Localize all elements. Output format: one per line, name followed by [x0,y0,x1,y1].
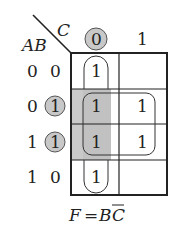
row-header-b-1: 1 [50,98,61,115]
cell-r2-c0: 1 [91,134,102,151]
row-header-b-2: 1 [50,134,61,151]
col-var-label: C [57,22,70,39]
row-header-a-0: 0 [27,63,38,80]
cell-r3-c0: 1 [91,169,102,186]
equation-equals: = [84,207,98,224]
equation-lhs: F [69,207,81,224]
col-header-1: 1 [137,31,148,48]
row-header-a-1: 0 [27,98,38,115]
col-header-0: 0 [91,31,102,48]
equation-b: B [99,207,112,224]
row-var-label: AB [22,37,47,54]
cell-r1-c1: 1 [137,98,148,115]
equation-c-bar: C [112,207,125,224]
row-header-b-0: 0 [50,63,61,80]
row-header-a-2: 1 [27,134,38,151]
row-header-b-3: 0 [50,169,61,186]
cell-r0-c0: 1 [91,63,102,80]
row-header-a-3: 1 [27,169,38,186]
cell-r1-c0: 1 [91,98,102,115]
cell-r2-c1: 1 [137,134,148,151]
